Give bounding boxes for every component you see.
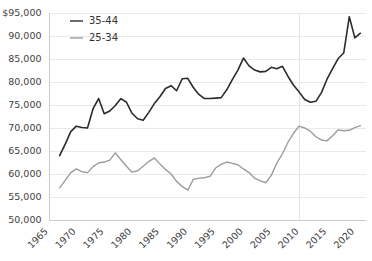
y-tick-label: 75,000 xyxy=(8,99,41,110)
gridlines xyxy=(49,13,367,221)
axis-lines xyxy=(49,13,367,221)
x-tick-label: 2010 xyxy=(276,226,301,251)
series-line-25-34 xyxy=(60,126,361,190)
legend-label: 25-34 xyxy=(89,32,118,43)
y-tick-label: 70,000 xyxy=(8,122,41,133)
y-tick-label: 85,000 xyxy=(8,53,41,64)
y-axis-tick-labels: 50,00055,00060,00065,00070,00075,00080,0… xyxy=(2,7,41,225)
x-tick-label: 2000 xyxy=(220,226,245,251)
x-tick-label: 2020 xyxy=(331,226,356,251)
y-tick-label: 55,000 xyxy=(8,191,41,202)
chart-canvas: 50,00055,00060,00065,00070,00075,00080,0… xyxy=(0,0,372,261)
x-tick-label: 1995 xyxy=(192,226,217,251)
x-tick-label: 1975 xyxy=(81,226,106,251)
x-tick-label: 1965 xyxy=(25,226,50,251)
x-tick-label: 2005 xyxy=(248,226,273,251)
y-tick-label: 80,000 xyxy=(8,76,41,87)
line-chart: 50,00055,00060,00065,00070,00075,00080,0… xyxy=(0,0,372,261)
x-axis-tick-labels: 1965197019751980198519901995200020052010… xyxy=(25,226,356,251)
x-tick-label: 1985 xyxy=(136,226,161,251)
chart-legend: 35-4425-34 xyxy=(70,15,118,43)
legend-label: 35-44 xyxy=(89,15,118,26)
y-tick-label: $95,000 xyxy=(2,7,41,18)
x-tick-label: 1970 xyxy=(53,226,78,251)
x-tick-label: 1990 xyxy=(164,226,189,251)
y-tick-label: 90,000 xyxy=(8,30,41,41)
y-tick-label: 50,000 xyxy=(8,214,41,225)
x-tick-label: 2015 xyxy=(304,226,329,251)
y-tick-label: 65,000 xyxy=(8,145,41,156)
y-tick-label: 60,000 xyxy=(8,168,41,179)
x-tick-label: 1980 xyxy=(109,226,134,251)
